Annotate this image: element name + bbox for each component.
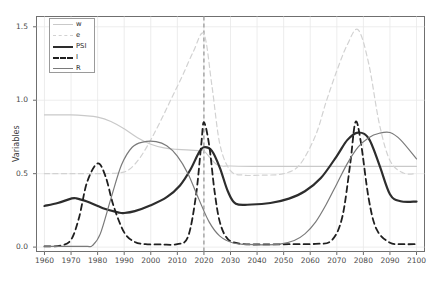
x-tick-label: 2010 [162,257,192,265]
x-tick-label: 1970 [56,257,86,265]
legend-swatch-e [53,35,73,36]
y-tick-label: 1.5 [2,23,28,31]
x-tick-label: 2080 [348,257,378,265]
x-tick-label: 1960 [29,257,59,265]
x-tick-label: 1980 [83,257,113,265]
y-tick-label: 0.0 [2,243,28,251]
legend-swatch-w [53,24,73,25]
legend-swatch-psi [53,46,73,48]
x-tick-label: 2050 [269,257,299,265]
x-tick-label: 2040 [242,257,272,265]
x-tick-label: 2060 [295,257,325,265]
x-tick-label: 2000 [136,257,166,265]
legend-label-i: I [76,53,78,62]
legend-label-r: R [76,64,81,73]
legend-label-w: w [76,20,82,29]
legend-entry: I [50,52,94,63]
legend-entry: R [50,63,94,74]
chart-figure: Variables 0.00.51.01.5 19601970198019902… [0,0,436,281]
x-tick-label: 2070 [322,257,352,265]
legend-label-psi: PSI [76,42,86,51]
legend-entry: e [50,30,94,41]
x-tick-label: 1990 [109,257,139,265]
legend-entry: PSI [50,41,94,52]
x-tick-label: 2030 [216,257,246,265]
legend-entry: w [50,19,94,30]
chart-legend: w e PSI I R [49,18,95,73]
x-tick-label: 2090 [375,257,405,265]
legend-label-e: e [76,31,80,40]
x-tick-label: 2020 [189,257,219,265]
y-axis-label: Variables [12,125,21,162]
legend-swatch-r [53,68,73,69]
legend-swatch-i [53,57,73,59]
x-tick-label: 2100 [402,257,432,265]
y-tick-label: 1.0 [2,96,28,104]
y-tick-label: 0.5 [2,170,28,178]
